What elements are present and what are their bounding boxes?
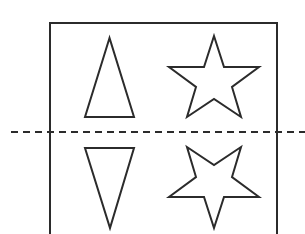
frame-outline <box>50 23 277 234</box>
triangle-down <box>85 148 134 228</box>
star-down <box>169 147 259 228</box>
triangle-up <box>85 38 134 117</box>
star-up <box>169 36 259 117</box>
symmetry-diagram <box>0 0 305 234</box>
